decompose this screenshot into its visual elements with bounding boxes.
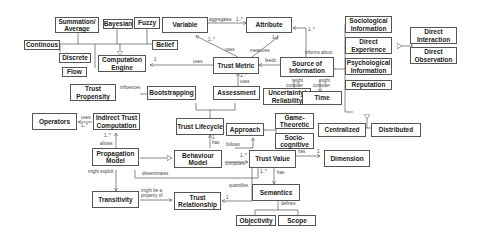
node-psychological[interactable]: Psychological Information <box>345 58 392 75</box>
label-might-exploit: might exploit <box>88 170 113 175</box>
node-attribute[interactable]: Attribute <box>246 17 292 33</box>
node-propagation-model[interactable]: Propagation Model <box>92 148 139 166</box>
label-disseminates: disseminates <box>142 172 168 177</box>
node-trust-value[interactable]: Trust Value <box>249 150 296 168</box>
node-trust-relationship[interactable]: Trust Relationship <box>174 192 221 210</box>
label-allows: allows <box>100 142 113 147</box>
label-uses-engine: uses <box>193 60 203 65</box>
node-centralized[interactable]: Centralized <box>318 123 366 137</box>
label-uses-ops: uses <box>81 116 91 121</box>
label-has-lifecycle: has <box>212 141 219 146</box>
label-aggregates: aggregates <box>209 18 232 23</box>
label-assess-mult: 1..* <box>240 74 247 79</box>
node-fuzzy[interactable]: Fuzzy <box>134 17 160 29</box>
node-behaviour-model[interactable]: Behaviour Model <box>174 150 222 168</box>
node-trust-metric[interactable]: Trust Metric <box>213 57 259 74</box>
node-semantics[interactable]: Semantics <box>252 184 300 201</box>
label-measures: measures <box>250 49 270 54</box>
label-follows: follows <box>226 143 240 148</box>
node-direct-observation[interactable]: Direct Observation <box>410 47 457 64</box>
label-engine-mult: 1 <box>154 58 157 63</box>
node-socio-cognitive[interactable]: Socio-cognitive <box>275 133 314 149</box>
node-indirect-trust[interactable]: Indirect Trust Computation <box>93 113 140 130</box>
node-discrete[interactable]: Discrete <box>59 53 91 63</box>
label-uses-var: uses <box>225 48 235 53</box>
node-computation-engine[interactable]: Computation Engine <box>98 55 146 72</box>
node-operators[interactable]: Operators <box>32 113 77 130</box>
node-flow[interactable]: Flow <box>62 67 87 77</box>
node-direct-experience[interactable]: Direct Experience <box>345 37 392 54</box>
node-source-information[interactable]: Source of Information <box>280 57 334 77</box>
label-influences: influences <box>120 86 140 91</box>
node-distributed[interactable]: Distributed <box>371 123 421 137</box>
label-quantifies-mult: 1 <box>226 196 229 201</box>
label-defines: defines <box>281 202 296 207</box>
node-continous[interactable]: Continous <box>24 40 60 50</box>
label-var-mult: 1..* <box>208 38 215 43</box>
node-variable[interactable]: Variable <box>162 17 208 33</box>
node-bootstrapping[interactable]: Bootstrapping <box>147 86 196 100</box>
label-informs: informs about <box>305 51 332 56</box>
label-lifecycle-mult: 1 <box>212 136 215 141</box>
label-feeds: feeds <box>265 59 276 64</box>
node-scope[interactable]: Scope <box>278 215 316 226</box>
label-aggregates-mult: 1..* <box>236 18 243 23</box>
node-dimension[interactable]: Dimension <box>324 150 370 167</box>
label-might-be-property: might be a property of <box>141 189 171 199</box>
label-has-dim: has <box>298 150 305 155</box>
node-direct-interaction[interactable]: Direct Interaction <box>410 27 457 44</box>
node-belief[interactable]: Belief <box>152 40 178 50</box>
label-dim-mult: 1 <box>317 150 320 155</box>
node-approach[interactable]: Approach <box>226 123 264 136</box>
label-attr-mult: 1..* <box>272 36 279 41</box>
node-reputation[interactable]: Reputation <box>345 80 392 90</box>
node-objectivity[interactable]: Objectivity <box>236 215 276 226</box>
label-uses-assess: uses <box>240 80 250 85</box>
label-might-consider-2: might consider <box>310 79 330 89</box>
label-computes-mult: 1..* <box>240 154 247 159</box>
label-computes: computes <box>225 162 245 167</box>
label-might-consider-1: might consider <box>283 79 303 89</box>
node-trust-lifecycle[interactable]: Trust Lifecycle <box>176 118 224 135</box>
label-allows-mult: 1..* <box>104 134 111 139</box>
label-informs-mult: 1..* <box>308 28 315 33</box>
node-trust-propensity[interactable]: Trust Propensity <box>70 84 116 101</box>
label-ops-mult: 1..* <box>81 124 88 129</box>
node-summation[interactable]: Summation/ Average <box>55 17 99 33</box>
node-assessment[interactable]: Assessment <box>213 86 260 100</box>
node-game-theoretic[interactable]: Game-Theoretic <box>275 113 314 129</box>
node-time[interactable]: Time <box>302 91 342 105</box>
label-quantifies: quantifies <box>229 184 248 189</box>
node-sociological[interactable]: Sociological Information <box>345 16 392 33</box>
label-has-sem: has <box>277 171 284 176</box>
node-transitivity[interactable]: Transitivity <box>92 191 139 208</box>
node-bayesian[interactable]: Bayesian <box>103 19 133 29</box>
label-sem-mult: 1..* <box>260 170 267 175</box>
